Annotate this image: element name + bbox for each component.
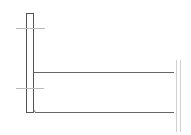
diagram-canvas xyxy=(0,0,191,135)
